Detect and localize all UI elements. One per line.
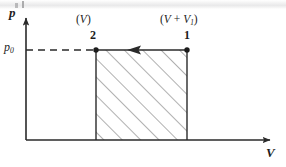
volume-label-right: (V + V1) — [160, 14, 198, 26]
volume-label-left: (V) — [76, 14, 91, 26]
state-label-2: 2 — [90, 29, 96, 41]
state-point-2-marker — [93, 47, 98, 52]
state-point-1-marker — [184, 47, 189, 52]
paren-close-right: ) — [194, 13, 198, 25]
plus-operator: + — [171, 13, 183, 25]
shaded-work-region — [96, 50, 187, 140]
x-axis-label: V — [266, 146, 275, 159]
volume-symbol-left: V — [80, 13, 87, 25]
pressure-volume-figure: p V p0 2 1 (V) (V + V1) — [0, 0, 286, 167]
paren-close-left: ) — [87, 13, 91, 25]
pv-diagram-canvas — [0, 0, 286, 167]
volume-symbol-right-1: V — [164, 13, 171, 25]
p0-tick-subscript: 0 — [10, 46, 14, 55]
p0-tick-label: p0 — [4, 41, 14, 54]
y-axis-label: p — [9, 6, 16, 19]
state-label-1: 1 — [184, 29, 190, 41]
